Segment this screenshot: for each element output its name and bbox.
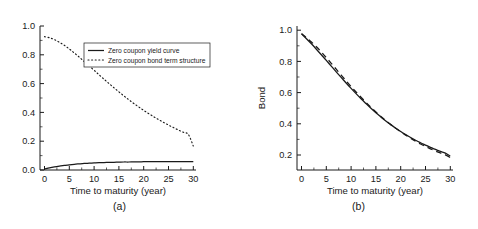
y-tick-label: 0.8 (22, 50, 35, 60)
x-tick-label: 30 (445, 174, 455, 184)
x-tick-label: 25 (420, 174, 430, 184)
y-tick-label: 0.2 (279, 150, 292, 160)
panel-b-x-tick-labels: 0 5 10 15 20 25 30 (299, 174, 455, 184)
panel-b-y-axis-title: Bond (256, 87, 267, 109)
panel-b-plot: 0.2 0.4 0.6 0.8 1.0 0 5 10 15 20 25 30 T… (239, 0, 478, 229)
x-tick-label: 25 (163, 174, 173, 184)
panel-a-x-ticks (45, 166, 194, 170)
y-tick-label: 0.0 (22, 165, 35, 175)
legend-label-yield-curve: Zero coupon yield curve (108, 47, 180, 55)
panel-a-x-tick-labels: 0 5 10 15 20 25 30 (42, 174, 198, 184)
x-tick-label: 10 (89, 174, 99, 184)
panel-a: 0.0 0.2 0.4 0.6 0.8 1.0 0 5 10 15 20 25 … (0, 0, 239, 229)
series-bond-price-dashed (302, 34, 451, 158)
y-tick-label: 0.4 (22, 108, 35, 118)
x-tick-label: 5 (67, 174, 72, 184)
panel-b-x-ticks (302, 166, 451, 170)
panel-a-legend: Zero coupon yield curve Zero coupon bond… (84, 43, 210, 67)
x-tick-label: 0 (42, 174, 47, 184)
x-tick-label: 20 (396, 174, 406, 184)
x-tick-label: 30 (188, 174, 198, 184)
x-tick-label: 5 (324, 174, 329, 184)
panel-b: 0.2 0.4 0.6 0.8 1.0 0 5 10 15 20 25 30 T… (239, 0, 478, 229)
panel-b-x-axis-title: Time to maturity (year) (327, 185, 423, 196)
panel-a-y-tick-labels: 0.0 0.2 0.4 0.6 0.8 1.0 (22, 21, 35, 175)
panel-a-caption: (a) (0, 200, 239, 212)
panel-b-caption: (b) (239, 200, 478, 212)
panel-b-y-tick-labels: 0.2 0.4 0.6 0.8 1.0 (279, 25, 292, 160)
legend-label-bond-term-structure: Zero coupon bond term structure (108, 57, 206, 65)
x-tick-label: 15 (114, 174, 124, 184)
y-tick-label: 1.0 (22, 21, 35, 31)
y-tick-label: 0.8 (279, 57, 292, 67)
panel-a-x-axis-title: Time to maturity (year) (70, 185, 166, 196)
y-tick-label: 0.4 (279, 119, 292, 129)
panel-b-y-ticks (297, 30, 301, 155)
y-tick-label: 0.6 (279, 88, 292, 98)
x-tick-label: 15 (371, 174, 381, 184)
x-tick-label: 0 (299, 174, 304, 184)
y-tick-label: 0.6 (22, 79, 35, 89)
series-bond-price-solid (302, 34, 451, 156)
panel-a-plot: 0.0 0.2 0.4 0.6 0.8 1.0 0 5 10 15 20 25 … (0, 0, 239, 229)
y-tick-label: 0.2 (22, 136, 35, 146)
x-tick-label: 20 (139, 174, 149, 184)
figure-container: 0.0 0.2 0.4 0.6 0.8 1.0 0 5 10 15 20 25 … (0, 0, 478, 229)
x-tick-label: 10 (346, 174, 356, 184)
y-tick-label: 1.0 (279, 25, 292, 35)
